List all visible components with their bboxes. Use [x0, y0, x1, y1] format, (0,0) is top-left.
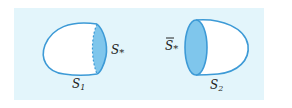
right-surface: S2 S* — [165, 20, 248, 93]
label-s1: S1 — [72, 77, 85, 92]
label-s2: S2 — [210, 78, 223, 93]
surfaces-diagram: S1 S* S2 S* — [0, 0, 292, 108]
left-surface-body — [43, 23, 97, 75]
label-s-star: S* — [111, 43, 124, 58]
left-surface: S1 S* — [43, 23, 124, 92]
right-cap — [185, 20, 207, 75]
label-s-star-bar: S* — [165, 39, 178, 54]
